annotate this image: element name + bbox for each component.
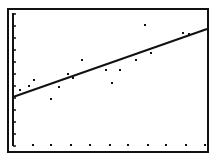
x-axis-tick xyxy=(109,144,111,146)
data-point xyxy=(182,32,184,34)
data-point xyxy=(28,85,30,87)
data-point xyxy=(33,79,35,81)
x-axis-tick xyxy=(204,144,206,146)
data-point xyxy=(58,86,60,88)
data-point xyxy=(144,24,146,26)
data-point xyxy=(119,69,121,71)
x-axis-tick xyxy=(127,144,129,146)
data-point xyxy=(19,89,21,91)
y-axis xyxy=(13,13,16,146)
scatter-plot xyxy=(0,0,212,163)
x-axis-tick xyxy=(70,144,72,146)
graph-window-frame xyxy=(8,9,208,152)
data-point xyxy=(105,69,107,71)
data-point xyxy=(111,82,113,84)
data-point xyxy=(81,59,83,61)
x-axis-tick xyxy=(165,144,167,146)
x-axis-tick xyxy=(50,144,52,146)
data-point xyxy=(135,59,137,61)
data-point xyxy=(67,73,69,75)
regression-line xyxy=(13,29,207,97)
calculator-graph-screen xyxy=(0,0,212,163)
data-point xyxy=(150,52,152,54)
data-point xyxy=(50,98,52,100)
x-axis-tick-marks xyxy=(32,144,206,146)
x-axis-tick xyxy=(147,144,149,146)
data-point xyxy=(72,77,74,79)
x-axis-tick xyxy=(32,144,34,146)
x-axis-tick xyxy=(185,144,187,146)
data-points xyxy=(19,24,190,100)
data-point xyxy=(188,33,190,35)
x-axis-tick xyxy=(89,144,91,146)
